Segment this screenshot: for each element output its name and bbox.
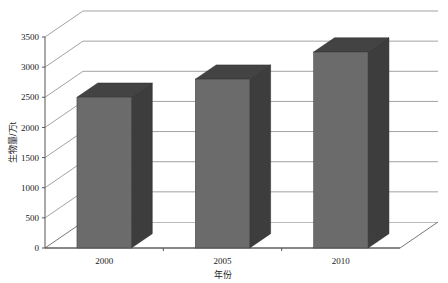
- bar-group: [77, 83, 152, 248]
- y-axis-tick-label: 2000: [21, 123, 40, 133]
- x-axis-tick-label: 2010: [332, 256, 351, 266]
- x-axis-tick-label: 2005: [214, 256, 233, 266]
- y-axis-tick-label: 2500: [21, 92, 40, 102]
- y-axis-tick-label: 0: [35, 243, 40, 253]
- y-axis-tick-label: 500: [26, 213, 40, 223]
- y-axis-tick-label: 3500: [21, 32, 40, 42]
- bar-side-face: [368, 38, 389, 248]
- bar-group: [314, 38, 389, 248]
- y-axis-tick-label: 1000: [21, 183, 40, 193]
- x-axis-title: 年份: [214, 269, 232, 280]
- chart-container: 0500100015002000250030003500200020052010…: [0, 0, 448, 283]
- bar-front-face[interactable]: [314, 52, 368, 248]
- gridline-depth: [45, 71, 83, 97]
- y-axis-tick-label: 3000: [21, 62, 40, 72]
- y-axis-title: 生物量/万t: [7, 122, 18, 164]
- bar-front-face[interactable]: [77, 97, 131, 248]
- x-axis-tick-label: 2000: [95, 256, 114, 266]
- gridline-depth: [45, 41, 83, 67]
- bar-side-face: [250, 65, 271, 248]
- bar-chart-3d: 0500100015002000250030003500200020052010…: [0, 0, 448, 283]
- y-axis-tick-label: 1500: [21, 153, 40, 163]
- gridline-depth: [45, 11, 83, 37]
- bar-side-face: [131, 83, 152, 248]
- bar-group: [195, 65, 270, 248]
- bar-front-face[interactable]: [195, 79, 249, 248]
